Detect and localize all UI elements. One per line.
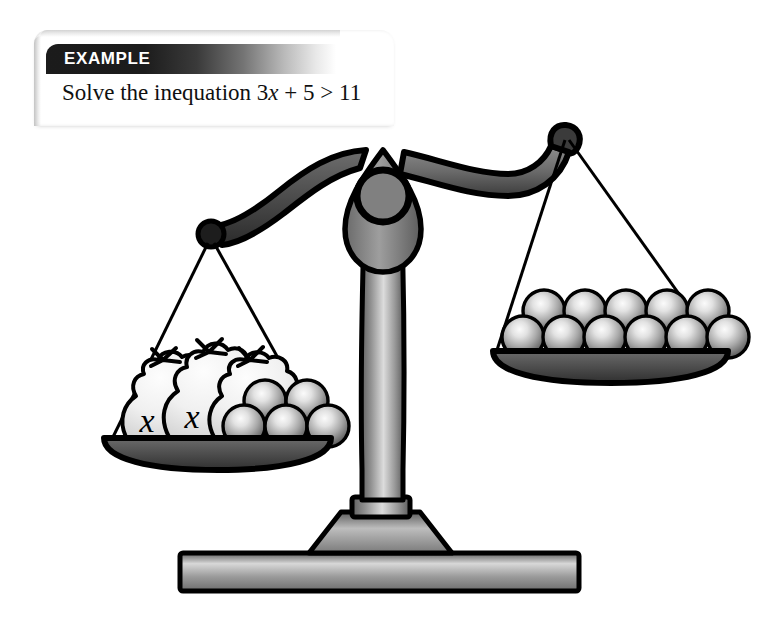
scale-base xyxy=(180,497,579,591)
right-pan-dish xyxy=(493,351,728,383)
balance-scale-illustration: x x x xyxy=(0,0,762,635)
left-pan-group: x x x xyxy=(104,243,349,470)
right-pan-balls xyxy=(502,290,749,358)
scale-column xyxy=(345,150,421,500)
bag-label-x-2: x xyxy=(183,398,199,435)
example-page: EXAMPLE Solve the inequation 3x + 5 > 11 xyxy=(0,0,762,635)
bag-label-x-1: x xyxy=(138,402,154,439)
left-pan-dish xyxy=(104,438,331,470)
